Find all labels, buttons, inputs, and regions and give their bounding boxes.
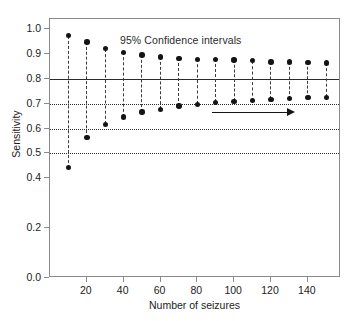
- x-tick-label: 120: [261, 284, 279, 296]
- x-tick-mark: [123, 277, 124, 282]
- y-tick-label: 0.7: [26, 97, 41, 109]
- lower-limit-marker: [268, 97, 273, 102]
- lower-limit-marker: [305, 95, 310, 100]
- upper-limit-marker: [158, 54, 163, 59]
- x-axis: 20406080100120140: [49, 277, 340, 301]
- interval-stem: [234, 60, 235, 101]
- x-tick-mark: [270, 277, 271, 282]
- upper-limit-marker: [139, 52, 144, 57]
- interval-stem: [197, 59, 198, 104]
- arrow-shaft: [212, 112, 288, 113]
- x-axis-title: Number of seizures: [49, 299, 340, 311]
- y-tick-label: 0.8: [26, 72, 41, 84]
- confidence-interval-caption: 95% Confidence intervals: [120, 34, 241, 46]
- x-tick-mark: [160, 277, 161, 282]
- upper-limit-marker: [66, 33, 71, 38]
- interval-stem: [178, 58, 179, 106]
- lower-limit-marker: [66, 165, 71, 170]
- upper-limit-marker: [213, 57, 218, 62]
- interval-stem: [141, 55, 142, 112]
- lower-limit-marker: [324, 95, 329, 100]
- x-tick-mark: [86, 277, 87, 282]
- y-tick-label: 0.5: [26, 146, 41, 158]
- plot-content: 95% Confidence intervals: [50, 19, 339, 276]
- y-tick-label: 0.6: [26, 122, 41, 134]
- arrow-head: [287, 108, 295, 116]
- y-tick-label: 0.4: [26, 171, 41, 183]
- y-tick-label: 1.0: [26, 22, 41, 34]
- interval-stem: [289, 62, 290, 99]
- y-tick-label: 0.2: [26, 221, 41, 233]
- interval-stem: [86, 42, 87, 138]
- upper-limit-marker: [176, 56, 181, 61]
- upper-limit-marker: [250, 58, 255, 63]
- x-tick-label: 20: [80, 284, 92, 296]
- interval-stem: [215, 59, 216, 102]
- interval-stem: [270, 62, 271, 99]
- lower-limit-marker: [103, 122, 108, 127]
- confidence-interval-chart: 1.00.90.80.70.60.50.40.20.0 Sensitivity …: [0, 0, 354, 321]
- upper-limit-marker: [195, 57, 200, 62]
- upper-limit-marker: [121, 50, 126, 55]
- interval-stem: [123, 52, 124, 117]
- reference-line-0-6: [50, 129, 339, 130]
- upper-limit-marker: [287, 59, 292, 64]
- lower-limit-marker: [250, 98, 255, 103]
- upper-limit-marker: [231, 57, 236, 62]
- x-tick-label: 140: [298, 284, 316, 296]
- lower-limit-marker: [231, 99, 236, 104]
- interval-stem: [252, 61, 253, 101]
- x-tick-label: 80: [190, 284, 202, 296]
- lower-limit-marker: [195, 102, 200, 107]
- reference-line-0-5: [50, 153, 339, 154]
- x-tick-label: 60: [154, 284, 166, 296]
- y-tick-label: 0.0: [26, 271, 41, 283]
- y-axis: 1.00.90.80.70.60.50.40.20.0: [0, 18, 49, 277]
- plot-frame: 95% Confidence intervals: [49, 18, 340, 277]
- upper-limit-marker: [305, 60, 310, 65]
- lower-limit-marker: [121, 114, 126, 119]
- lower-limit-marker: [176, 103, 181, 108]
- interval-stem: [326, 63, 327, 97]
- x-tick-label: 40: [117, 284, 129, 296]
- lower-limit-marker: [84, 135, 89, 140]
- lower-limit-marker: [287, 96, 292, 101]
- interval-stem: [160, 57, 161, 110]
- y-axis-title: Sensitivity: [10, 94, 22, 174]
- x-tick-mark: [196, 277, 197, 282]
- upper-limit-marker: [324, 60, 329, 65]
- y-tick-label: 0.9: [26, 47, 41, 59]
- interval-stem: [105, 49, 106, 125]
- upper-limit-marker: [268, 59, 273, 64]
- lower-limit-marker: [158, 107, 163, 112]
- x-tick-mark: [233, 277, 234, 282]
- reference-line-0-8: [50, 79, 339, 80]
- x-tick-label: 100: [224, 284, 242, 296]
- upper-limit-marker: [103, 46, 108, 51]
- upper-limit-marker: [84, 39, 89, 44]
- trend-arrow-icon: [212, 108, 295, 117]
- lower-limit-marker: [139, 109, 144, 114]
- x-tick-mark: [307, 277, 308, 282]
- interval-stem: [307, 62, 308, 97]
- interval-stem: [68, 36, 69, 168]
